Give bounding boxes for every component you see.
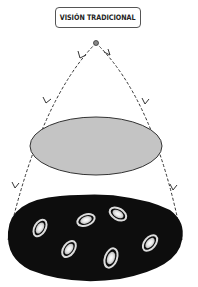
arrow-icon: [142, 98, 149, 104]
arrow-icon: [43, 97, 51, 103]
arrow-icon: [170, 184, 177, 190]
observer-point: [94, 41, 99, 46]
upper-ellipse: [30, 117, 162, 175]
arrow-icon: [12, 182, 19, 188]
diagram: [0, 0, 198, 287]
arrow-icon: [78, 51, 86, 58]
